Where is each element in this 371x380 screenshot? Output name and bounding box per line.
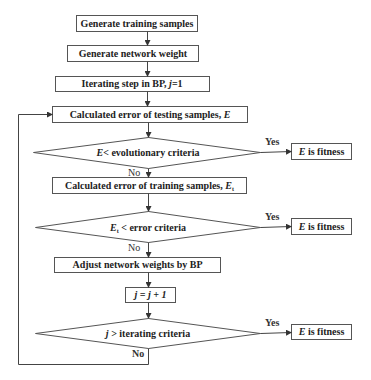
label-text: Generate network weight xyxy=(79,48,187,59)
label-fitness-1: E is fitness xyxy=(299,147,345,157)
label-fitness-2: E is fitness xyxy=(299,222,345,232)
label-text: Calculated error of training samples, xyxy=(65,179,225,190)
variable-e: E xyxy=(299,221,306,232)
edge-label-d3-no: No xyxy=(132,349,144,359)
label-iterating-criteria: j > iterating criteria xyxy=(106,329,190,339)
variable-e: E xyxy=(299,146,306,157)
edge-label-d1-no: No xyxy=(128,168,140,178)
label-text: Generate training samples xyxy=(81,18,194,29)
arrow-d1-yes xyxy=(261,152,292,153)
flowchart: Generate training samples Generate netwo… xyxy=(0,0,371,380)
label-text: Calculated error of testing samples, xyxy=(70,109,224,120)
label-text: =1 xyxy=(172,78,183,89)
arrow-d3-yes xyxy=(261,333,292,334)
label-generate-network-weight: Generate network weight xyxy=(79,49,187,59)
label-text: is fitness xyxy=(305,326,344,337)
label-evolutionary-criteria: E< evolutionary criteria xyxy=(97,148,200,158)
variable-e: E xyxy=(224,109,231,120)
edge-label-d2-no: No xyxy=(128,243,140,253)
label-text: is fitness xyxy=(305,146,344,157)
label-text: Iterating step in BP, xyxy=(81,78,169,89)
label-generate-training-samples: Generate training samples xyxy=(81,19,194,29)
label-fitness-3: E is fitness xyxy=(299,327,345,337)
label-adjust-weights: Adjust network weights by BP xyxy=(72,260,202,270)
label-increment-j: j = j + 1 xyxy=(135,290,167,300)
label-text: j = j + 1 xyxy=(135,289,167,300)
label-text: is fitness xyxy=(305,221,344,232)
edge-label-d2-yes: Yes xyxy=(265,212,279,222)
label-text: Adjust network weights by BP xyxy=(72,259,202,270)
label-calc-error-training: Calculated error of training samples, Et xyxy=(65,180,234,191)
subscript-t: t xyxy=(232,185,234,191)
label-text: < evolutionary criteria xyxy=(103,147,199,158)
variable-e: E xyxy=(110,221,117,232)
variable-e: E xyxy=(225,179,232,190)
edge-label-d3-yes: Yes xyxy=(265,318,279,328)
label-iterating-step: Iterating step in BP, j=1 xyxy=(81,79,182,89)
arrow-d2-yes xyxy=(261,227,292,228)
variable-e: E xyxy=(97,147,104,158)
variable-e: E xyxy=(299,326,306,337)
label-error-criteria: Et < error criteria xyxy=(110,222,186,233)
edge-label-d1-yes: Yes xyxy=(265,137,279,147)
label-text: > iterating criteria xyxy=(109,328,191,339)
label-calc-error-testing: Calculated error of testing samples, E xyxy=(70,110,231,120)
label-text: < error criteria xyxy=(119,221,186,232)
